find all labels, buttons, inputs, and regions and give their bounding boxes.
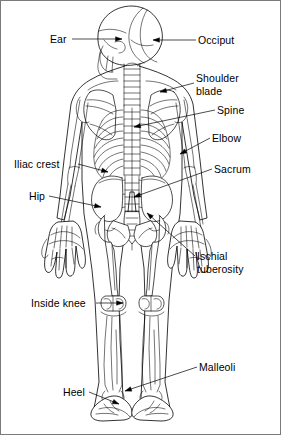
label-spine-text: Spine	[217, 104, 244, 116]
label-hip-text: Hip	[29, 190, 45, 202]
label-sacrum-text: Sacrum	[214, 163, 251, 175]
label-shoulder-blade-line2: blade	[196, 85, 222, 97]
label-heel: Heel	[63, 386, 85, 399]
leader-arrowhead-malleoli	[125, 387, 132, 391]
label-shoulder-blade-line1: Shoulder	[196, 72, 239, 84]
label-occiput: Occiput	[198, 34, 234, 47]
label-inside-knee: Inside knee	[31, 297, 86, 310]
label-malleoli-text: Malleoli	[199, 361, 235, 373]
label-spine: Spine	[217, 104, 244, 117]
label-ischial-tuberosity-line1: Ischial	[197, 250, 227, 262]
label-occiput-text: Occiput	[198, 34, 234, 46]
label-shoulder-blade: Shoulder blade	[196, 72, 258, 97]
label-elbow-text: Elbow	[212, 132, 241, 144]
label-ear-text: Ear	[50, 33, 67, 45]
label-ischial-tuberosity-line2: tuberosity	[197, 263, 244, 275]
skeleton-diagram	[0, 0, 281, 435]
label-hip: Hip	[29, 190, 45, 203]
label-ear: Ear	[50, 33, 67, 46]
label-heel-text: Heel	[63, 386, 85, 398]
label-malleoli: Malleoli	[199, 361, 235, 374]
label-ischial-tuberosity: Ischial tuberosity	[197, 250, 259, 275]
label-iliac-crest: Iliac crest	[14, 158, 59, 171]
label-inside-knee-text: Inside knee	[31, 297, 86, 309]
label-iliac-crest-text: Iliac crest	[14, 158, 59, 170]
anatomy-figure: Ear Occiput Shoulder blade Spine Elbow S…	[0, 0, 281, 435]
label-elbow: Elbow	[212, 132, 241, 145]
label-sacrum: Sacrum	[214, 163, 251, 176]
